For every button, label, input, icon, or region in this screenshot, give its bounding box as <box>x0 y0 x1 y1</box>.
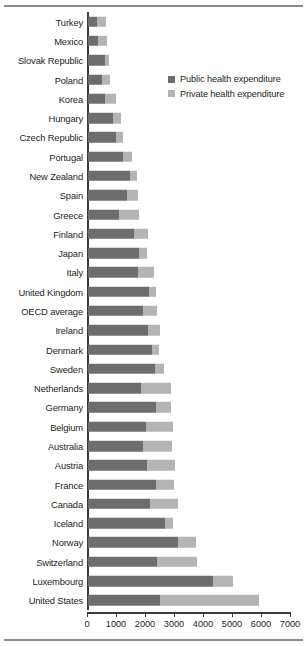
bar-segment-public <box>88 460 147 471</box>
x-axis-tick-label: 6000 <box>251 619 271 629</box>
bar-segment-public <box>88 595 160 606</box>
stacked-bar <box>88 16 106 27</box>
bar-segment-private <box>156 479 174 490</box>
bar-segment-private <box>155 364 164 375</box>
bar-row: Belgium <box>0 417 307 436</box>
bar-segment-public <box>88 518 165 529</box>
bar-row: Slovak Republic <box>0 51 307 70</box>
bar-segment-private <box>139 248 147 259</box>
bar-segment-public <box>88 441 143 452</box>
bar-category-label: Slovak Republic <box>18 55 83 66</box>
bar-row: Netherlands <box>0 379 307 398</box>
bar-segment-public <box>88 190 127 201</box>
bar-row: Hungary <box>0 108 307 127</box>
bar-segment-public <box>88 113 113 124</box>
bar-row: Czech Republic <box>0 128 307 147</box>
bar-segment-public <box>88 402 156 413</box>
bar-segment-private <box>134 229 148 240</box>
stacked-bar <box>88 229 148 240</box>
bar-segment-private <box>97 16 106 27</box>
x-axis-tick-label: 3000 <box>164 619 184 629</box>
bar-row: Austria <box>0 456 307 475</box>
bar-segment-public <box>88 55 105 66</box>
bar-category-label: United States <box>29 595 83 606</box>
bar-category-label: Spain <box>60 190 83 201</box>
stacked-bar <box>88 306 157 317</box>
bar-category-label: Belgium <box>50 421 83 432</box>
bar-segment-public <box>88 344 152 355</box>
stacked-bar <box>88 151 132 162</box>
bar-segment-private <box>165 518 173 529</box>
stacked-bar <box>88 460 175 471</box>
bar-category-label: Ireland <box>55 325 83 336</box>
bar-segment-private <box>149 286 156 297</box>
bar-category-label: Portugal <box>49 151 83 162</box>
bar-row: United States <box>0 591 307 610</box>
bar-row: Japan <box>0 243 307 262</box>
bar-category-label: Canada <box>51 498 83 509</box>
bar-segment-public <box>88 94 105 105</box>
legend-swatch-public-icon <box>168 76 175 83</box>
bar-segment-private <box>143 306 157 317</box>
stacked-bar <box>88 557 197 568</box>
x-axis-tick <box>116 612 117 617</box>
bar-segment-private <box>178 537 196 548</box>
bar-segment-public <box>88 383 141 394</box>
health-expenditure-chart: TurkeyMexicoSlovak RepublicPolandKoreaHu… <box>0 0 307 646</box>
bar-row: Switzerland <box>0 552 307 571</box>
bar-row: Luxembourg <box>0 571 307 590</box>
bar-segment-public <box>88 36 98 47</box>
bar-segment-private <box>130 171 137 182</box>
bar-row: Mexico <box>0 31 307 50</box>
x-axis-tick <box>203 612 204 617</box>
stacked-bar <box>88 595 259 606</box>
bar-segment-private <box>147 460 175 471</box>
x-axis-tick-label: 0 <box>84 619 89 629</box>
bar-category-label: Denmark <box>46 344 83 355</box>
bar-segment-private <box>150 499 178 510</box>
bar-row: Turkey <box>0 12 307 31</box>
stacked-bar <box>88 383 171 394</box>
x-axis-tick <box>87 612 88 617</box>
bar-row: Germany <box>0 398 307 417</box>
bar-segment-public <box>88 16 97 27</box>
bar-segment-public <box>88 151 123 162</box>
stacked-bar <box>88 364 164 375</box>
bar-segment-private <box>141 383 171 394</box>
bar-category-label: New Zealand <box>29 170 83 181</box>
bar-row: Sweden <box>0 359 307 378</box>
legend-item: Public health expenditure <box>168 74 284 84</box>
bar-segment-public <box>88 576 213 587</box>
bar-segment-private <box>102 74 110 85</box>
bar-segment-public <box>88 325 148 336</box>
x-axis-tick-label: 4000 <box>193 619 213 629</box>
bar-segment-private <box>143 441 172 452</box>
bar-segment-public <box>88 479 156 490</box>
bar-segment-public <box>88 306 143 317</box>
bar-segment-public <box>88 248 139 259</box>
bar-segment-private <box>105 55 109 66</box>
stacked-bar <box>88 55 109 66</box>
stacked-bar <box>88 190 138 201</box>
bar-row: Portugal <box>0 147 307 166</box>
bar-category-label: Poland <box>55 74 83 85</box>
bar-segment-private <box>152 344 159 355</box>
bar-category-label: OECD average <box>21 305 83 316</box>
bar-segment-public <box>88 171 130 182</box>
bar-segment-public <box>88 132 116 143</box>
x-axis-tick <box>232 612 233 617</box>
stacked-bar <box>88 209 139 220</box>
x-axis-tick-label: 2000 <box>135 619 155 629</box>
stacked-bar <box>88 537 196 548</box>
stacked-bar <box>88 518 173 529</box>
bar-segment-private <box>113 113 121 124</box>
bar-segment-private <box>146 421 173 432</box>
stacked-bar <box>88 74 110 85</box>
bar-segment-private <box>105 94 116 105</box>
bar-row: Finland <box>0 224 307 243</box>
x-axis-tick <box>290 612 291 617</box>
bar-segment-private <box>127 190 138 201</box>
bar-segment-public <box>88 209 119 220</box>
stacked-bar <box>88 421 173 432</box>
bar-row: New Zealand <box>0 166 307 185</box>
